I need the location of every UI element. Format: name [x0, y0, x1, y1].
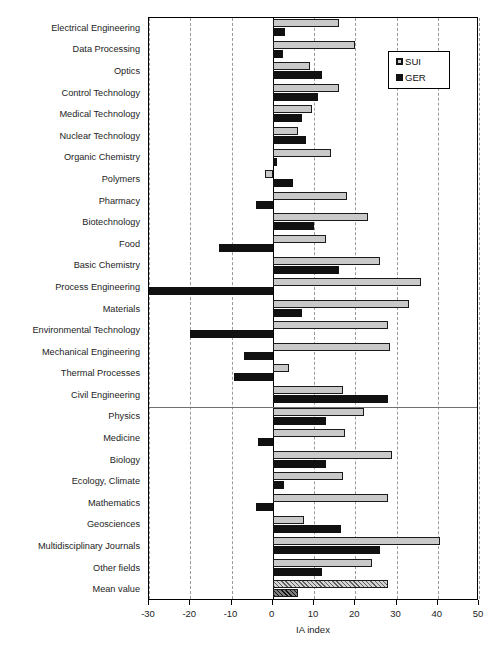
plot-area [148, 17, 478, 600]
category-label: Polymers [102, 174, 140, 184]
bar-ger [273, 50, 283, 58]
bar-ger [273, 309, 302, 317]
bar-sui [273, 192, 347, 200]
x-tick-label: 50 [458, 608, 498, 619]
legend-label-sui: SUI [405, 56, 421, 67]
x-tick-label: -20 [169, 608, 209, 619]
bar-sui [273, 235, 327, 243]
bar-ger [273, 589, 298, 597]
bar-sui [273, 408, 364, 416]
bar-group [149, 342, 477, 364]
x-tick [478, 600, 479, 605]
bar-ger [273, 568, 323, 576]
bar-group [149, 126, 477, 148]
legend-label-ger: GER [405, 72, 426, 83]
bar-ger [273, 525, 341, 533]
bar-ger [273, 136, 306, 144]
bar-group [149, 212, 477, 234]
bar-ger [273, 266, 339, 274]
category-label: Process Engineering [55, 282, 140, 292]
x-tick [231, 600, 232, 605]
bar-ger [273, 158, 277, 166]
category-label: Data Processing [73, 44, 140, 54]
x-axis-ticks [148, 600, 478, 606]
bar-sui [273, 84, 339, 92]
bar-sui [273, 105, 312, 113]
bars-layer [149, 18, 477, 599]
bar-group [149, 428, 477, 450]
bar-sui [273, 321, 389, 329]
bar-ger [273, 93, 318, 101]
bar-sui [273, 127, 298, 135]
bar-group [149, 299, 477, 321]
legend-item-ger: GER [396, 71, 426, 84]
x-tick [272, 600, 273, 605]
bar-sui [273, 19, 339, 27]
bar-sui [273, 516, 304, 524]
category-label: Thermal Processes [61, 368, 140, 378]
bar-group [149, 407, 477, 429]
category-label: Basic Chemistry [74, 260, 140, 270]
x-tick [313, 600, 314, 605]
bar-ger [273, 222, 314, 230]
x-tick [437, 600, 438, 605]
category-label: Mathematics [88, 498, 140, 508]
bar-sui [273, 386, 343, 394]
bar-group [149, 385, 477, 407]
x-tick [354, 600, 355, 605]
bar-ger [190, 330, 273, 338]
legend: SUI GER [388, 51, 450, 89]
bar-sui [273, 300, 409, 308]
bar-sui [273, 278, 422, 286]
x-tick [189, 600, 190, 605]
bar-ger [273, 481, 284, 489]
bar-sui [273, 213, 368, 221]
category-label: Civil Engineering [71, 390, 140, 400]
bar-group [149, 191, 477, 213]
category-label: Ecology, Climate [72, 476, 140, 486]
bar-ger [258, 438, 272, 446]
bar-ger [256, 201, 273, 209]
category-label: Geosciences [87, 519, 140, 529]
legend-swatch-sui-icon [396, 58, 403, 65]
category-label: Environmental Technology [32, 325, 140, 335]
bar-group [149, 558, 477, 580]
bar-sui [273, 149, 331, 157]
bar-sui [265, 170, 273, 178]
bar-ger [273, 28, 285, 36]
category-label: Mechanical Engineering [42, 347, 140, 357]
bar-sui [273, 559, 372, 567]
bar-group [149, 579, 477, 601]
bar-sui [273, 580, 389, 588]
bar-sui [273, 494, 389, 502]
category-label: Medicine [103, 433, 140, 443]
bar-ger [219, 244, 273, 252]
bar-ger [273, 395, 389, 403]
bar-group [149, 169, 477, 191]
bar-group [149, 450, 477, 472]
x-tick-label: -10 [211, 608, 251, 619]
bar-sui [273, 257, 380, 265]
bar-ger [273, 71, 323, 79]
bar-group [149, 104, 477, 126]
bar-group [149, 536, 477, 558]
bar-sui [273, 429, 345, 437]
bar-sui [273, 364, 290, 372]
bar-ger [244, 352, 273, 360]
bar-sui [273, 451, 393, 459]
category-label: Organic Chemistry [64, 152, 140, 162]
category-label: Electrical Engineering [51, 23, 140, 33]
bar-sui [273, 472, 343, 480]
x-axis-title: IA index [148, 624, 478, 635]
bar-group [149, 256, 477, 278]
category-label: Mean value [93, 584, 141, 594]
category-label: Materials [103, 304, 140, 314]
category-label: Physics [108, 411, 140, 421]
x-tick [396, 600, 397, 605]
category-label: Nuclear Technology [59, 131, 140, 141]
category-label: Pharmacy [99, 196, 140, 206]
ia-index-bar-chart: Electrical EngineeringData ProcessingOpt… [0, 0, 501, 661]
bar-group [149, 18, 477, 40]
bar-group [149, 493, 477, 515]
category-label: Optics [114, 66, 140, 76]
